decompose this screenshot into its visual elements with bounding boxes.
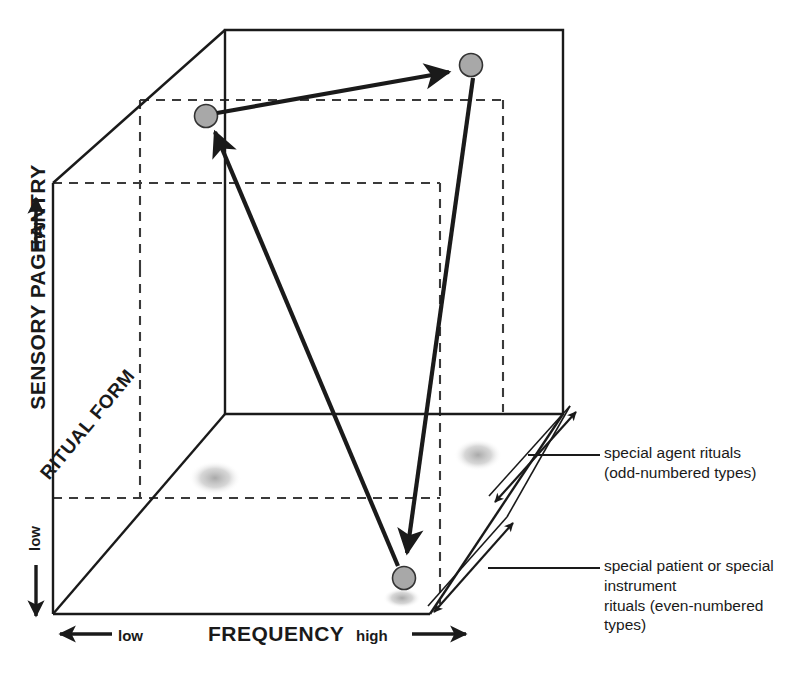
callout-special-patient-rituals: special patient or special instrument ri…: [604, 556, 800, 635]
x-axis-low-label: low: [118, 627, 143, 644]
trajectory-arrows: [215, 72, 473, 566]
y-axis-high-label: high: [28, 189, 45, 269]
cube-edge-floor-right: [430, 414, 563, 614]
callout-special-agent-rituals: special agent rituals (odd-numbered type…: [604, 443, 757, 483]
shadow-blobs: [189, 439, 502, 608]
marker-upper-left: [195, 105, 218, 128]
y-axis-title: SENSORY PAGEANTRY: [26, 117, 50, 457]
depth-arrows: [428, 406, 576, 612]
depth-arrow-agent: [495, 412, 576, 502]
marker-upper-right: [460, 54, 483, 77]
callout-patient-line1: special patient or special instrument: [604, 556, 800, 596]
callout-leaders: [488, 455, 600, 568]
cube-wireframe: [53, 30, 563, 614]
cube-front-face: [225, 30, 563, 414]
x-axis-high-label: high: [356, 627, 388, 644]
y-axis-low-label: low: [26, 499, 43, 579]
marker-lower: [393, 567, 416, 590]
callout-agent-line1: special agent rituals: [604, 443, 757, 463]
arrow-left-to-right: [217, 72, 449, 113]
callout-patient-line2: rituals (even-numbered types): [604, 596, 800, 636]
x-axis-title: FREQUENCY: [208, 622, 344, 646]
callout-agent-line2: (odd-numbered types): [604, 463, 757, 483]
arrow-right-to-lower: [407, 78, 473, 553]
arrow-lower-to-left: [215, 132, 398, 566]
